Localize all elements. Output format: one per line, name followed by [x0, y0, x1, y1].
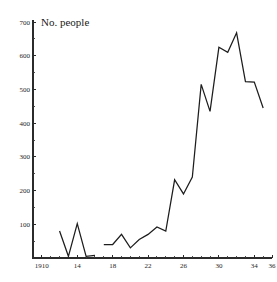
- line-chart: 100200300400500600700 191014182226303436…: [0, 0, 277, 282]
- x-tick-label-1910: 1910: [35, 262, 50, 270]
- x-tick-label-1936: 36: [269, 262, 277, 270]
- y-tick-label-700: 700: [20, 19, 31, 27]
- axis-ticks: [32, 22, 272, 258]
- y-axis-tick-labels: 100200300400500600700: [20, 19, 31, 229]
- series-line-segment-1: [60, 224, 95, 257]
- x-tick-label-1922: 22: [145, 262, 153, 270]
- chart-container: 100200300400500600700 191014182226303436…: [0, 0, 277, 282]
- x-tick-label-1930: 30: [215, 262, 223, 270]
- y-tick-label-200: 200: [20, 187, 31, 195]
- y-tick-label-500: 500: [20, 86, 31, 94]
- y-tick-label-400: 400: [20, 120, 31, 128]
- chart-title: No. people: [41, 16, 89, 28]
- axis-spine: [33, 20, 272, 258]
- x-tick-label-1934: 34: [251, 262, 259, 270]
- x-axis-tick-labels: 191014182226303436: [35, 262, 276, 270]
- x-tick-label-1918: 18: [109, 262, 117, 270]
- x-tick-label-1914: 14: [74, 262, 82, 270]
- series-line-segment-2: [104, 33, 263, 248]
- y-tick-label-600: 600: [20, 52, 31, 60]
- data-series-line: [60, 33, 264, 257]
- axes: [33, 20, 272, 258]
- y-tick-label-100: 100: [20, 221, 31, 229]
- y-tick-label-300: 300: [20, 153, 31, 161]
- x-tick-label-1926: 26: [180, 262, 188, 270]
